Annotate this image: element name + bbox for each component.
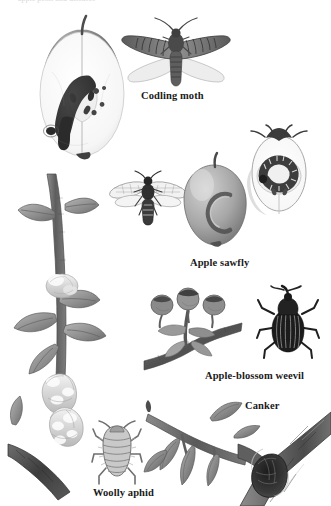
wilted-leaf	[180, 446, 195, 485]
illustration-plate: apple pests and diseases	[0, 0, 331, 506]
figure-codling-moth-adult	[118, 16, 234, 94]
sawfly-antenna-right	[151, 171, 161, 178]
blossom-leaf	[189, 328, 215, 338]
moth-hindwing-right	[177, 56, 224, 82]
shoot-leaf	[14, 313, 57, 332]
aphid-body	[103, 426, 131, 476]
label-apple-blossom-weevil: Apple-blossom weevil	[205, 370, 304, 381]
label-woolly-aphid: Woolly aphid	[93, 487, 154, 498]
moth-forewing-left	[122, 36, 172, 59]
moth-abdomen	[170, 51, 182, 86]
shoot-leaf	[10, 396, 22, 425]
figure-woolly-aphid-enlarged	[92, 420, 142, 488]
weevil-antenna-right	[287, 286, 301, 291]
label-apple-sawfly: Apple sawfly	[190, 257, 249, 268]
moth-forewing-right	[180, 36, 230, 59]
moth-antenna-right	[179, 18, 197, 30]
moth-antenna-left	[155, 18, 173, 30]
figure-apple-section-with-sawfly-larva	[232, 124, 326, 230]
figure-apple-blossom-weevil-adult	[256, 286, 320, 360]
label-codling-moth: Codling moth	[141, 90, 204, 101]
shoot-leaf	[29, 344, 59, 374]
woolly-aphid-colony-upper	[46, 274, 78, 298]
twig-bud	[146, 400, 151, 412]
sawfly-thorax	[142, 184, 155, 200]
shoot-leaf	[65, 198, 99, 213]
larva-exit-hole	[46, 127, 56, 135]
apple-highlight	[190, 169, 214, 201]
top-cutoff-text: apple pests and diseases	[18, 0, 318, 3]
blossom-leaf	[158, 325, 186, 336]
larva-head	[259, 175, 267, 183]
label-canker: Canker	[245, 400, 279, 411]
woolly-aphid-colony-lower	[42, 374, 83, 446]
damaged-blossom-bud	[203, 295, 225, 328]
damaged-blossom-bud	[151, 295, 173, 328]
lower-branch	[8, 444, 70, 500]
moth-hindwing-left	[128, 56, 175, 82]
figure-cankered-branch	[238, 412, 331, 506]
figure-damaged-blossom-truss	[142, 285, 248, 367]
sawfly-antenna-left	[135, 171, 145, 178]
